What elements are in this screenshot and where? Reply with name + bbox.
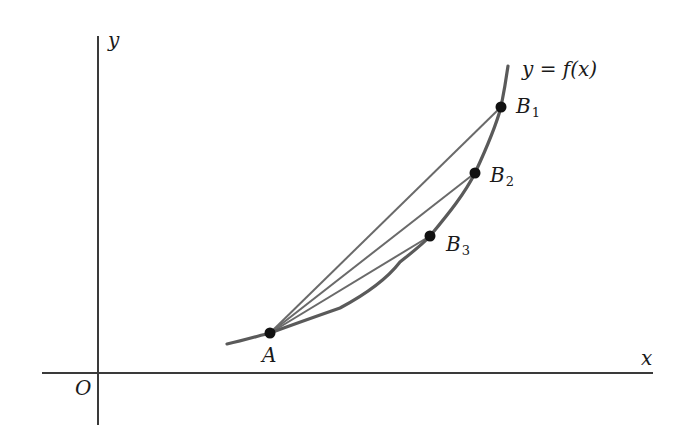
point-B1-name: B [516, 94, 531, 118]
origin-label: O [75, 378, 91, 398]
point-B2-name: B [490, 163, 505, 187]
point-B2 [470, 168, 481, 179]
point-A-label: A [262, 345, 276, 365]
point-B3-subscript: 3 [462, 243, 470, 258]
curve-f [227, 66, 508, 344]
secant-AB3 [270, 236, 430, 333]
secant-AB1 [270, 107, 501, 333]
y-axis-label: y [108, 30, 119, 50]
point-B3-label: B3 [446, 234, 470, 257]
curve-label: y = f(x) [522, 59, 597, 79]
point-B3-name: B [446, 232, 461, 256]
point-B2-label: B2 [490, 165, 514, 188]
point-A [265, 328, 276, 339]
point-B1 [496, 102, 507, 113]
point-B1-label: B1 [516, 96, 540, 119]
point-A-name: A [262, 343, 276, 367]
point-B2-subscript: 2 [506, 174, 514, 189]
x-axis-label: x [641, 348, 652, 368]
point-B1-subscript: 1 [532, 105, 540, 120]
secant-AB2 [270, 173, 475, 333]
point-B3 [425, 231, 436, 242]
